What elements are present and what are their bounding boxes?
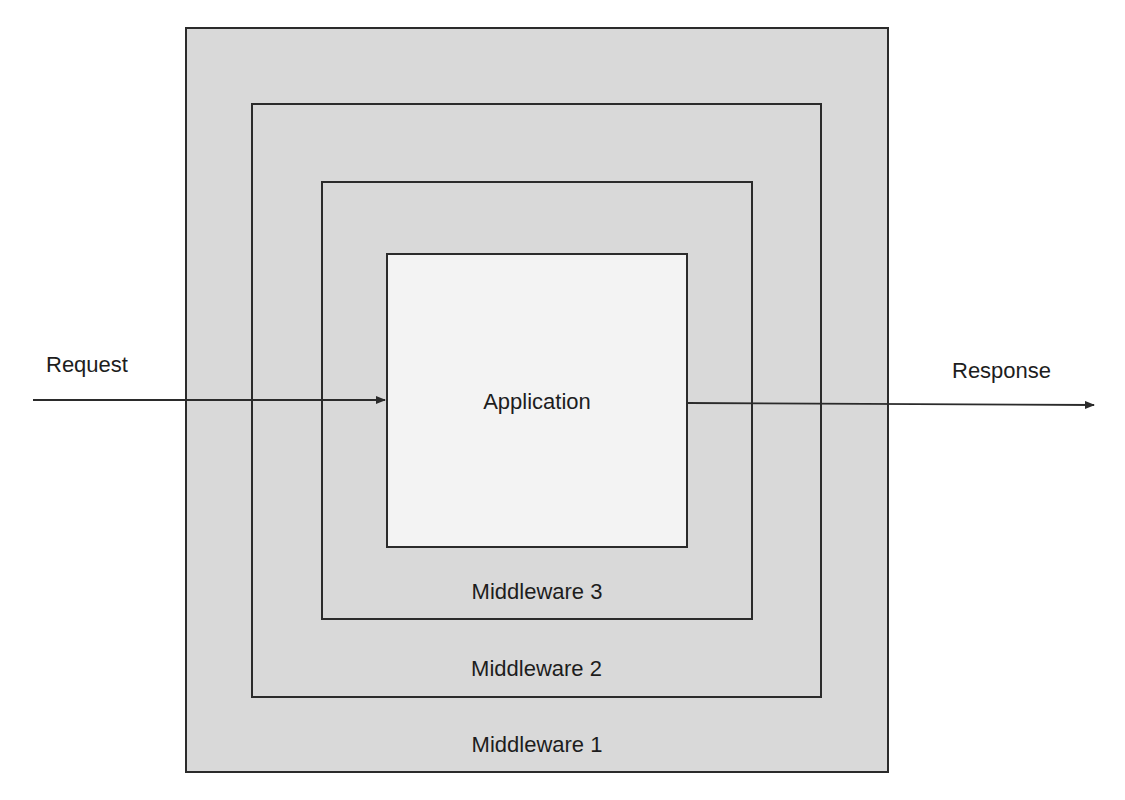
response-label: Response [952,358,1051,384]
middleware-3-label: Middleware 3 [323,579,751,605]
middleware-2-label: Middleware 2 [253,656,820,682]
application-label: Application [388,389,686,415]
request-label: Request [46,352,128,378]
application-box: Application [386,253,688,548]
middleware-1-label: Middleware 1 [187,732,887,758]
